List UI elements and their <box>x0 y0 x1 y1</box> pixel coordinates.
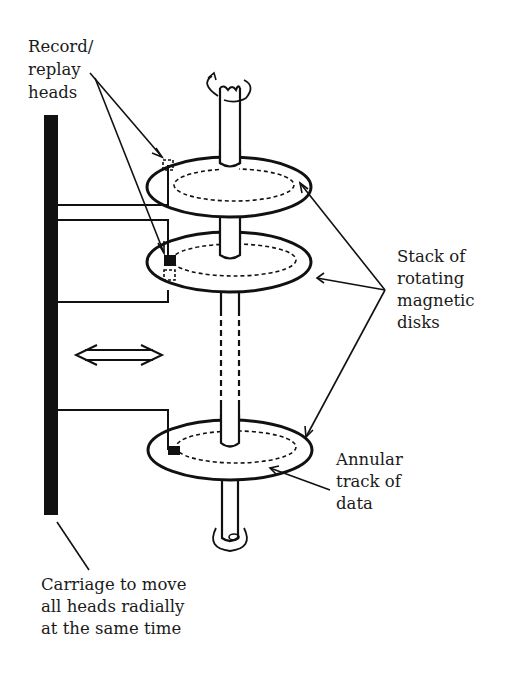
svg-text:Carriage to move: Carriage to move <box>41 575 186 594</box>
carriage-arm-bottom <box>58 410 168 450</box>
svg-text:disks: disks <box>397 313 440 332</box>
head-middle-solid <box>164 255 176 266</box>
svg-text:heads: heads <box>28 83 77 102</box>
svg-text:rotating: rotating <box>397 269 465 288</box>
svg-text:magnetic: magnetic <box>397 291 475 310</box>
svg-text:replay: replay <box>28 60 81 79</box>
svg-text:all heads radially: all heads radially <box>41 597 185 616</box>
svg-text:data: data <box>336 494 373 513</box>
spindle-middle <box>221 292 239 420</box>
disk-stack-diagram: Record/ replay heads Stack of rotating m… <box>0 0 505 676</box>
disks-leaders <box>300 183 385 437</box>
spindle-bottom <box>213 480 247 551</box>
svg-text:at the same time: at the same time <box>41 619 181 638</box>
label-carriage: Carriage to move all heads radially at t… <box>41 575 186 638</box>
label-track: Annular track of data <box>335 450 403 513</box>
label-disks: Stack of rotating magnetic disks <box>397 247 475 332</box>
disk-middle <box>147 230 311 292</box>
carriage-arm-middle <box>58 220 168 302</box>
head-bottom-solid <box>168 446 180 455</box>
carriage-bar <box>44 115 58 515</box>
radial-motion-arrow-icon <box>76 345 162 365</box>
track-leader <box>270 466 330 490</box>
disk-top <box>147 150 311 217</box>
svg-text:track of: track of <box>336 472 403 491</box>
head-middle-dashed <box>164 270 175 280</box>
svg-text:Record/: Record/ <box>28 37 94 56</box>
label-heads: Record/ replay heads <box>28 37 94 102</box>
carriage-leader <box>57 522 89 570</box>
heads-leaders <box>90 73 164 253</box>
svg-text:Annular: Annular <box>335 450 403 469</box>
disk-bottom <box>148 415 312 480</box>
svg-text:Stack of: Stack of <box>397 247 467 266</box>
